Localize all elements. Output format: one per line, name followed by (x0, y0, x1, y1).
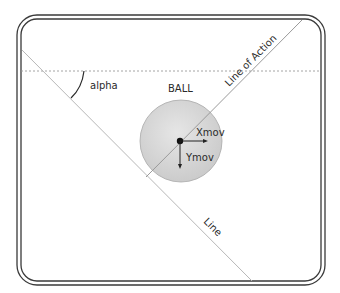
line-label: Line (202, 216, 225, 239)
ball-label: BALL (168, 83, 193, 94)
alpha-label: alpha (90, 80, 118, 91)
diagram-canvas: alpha BALL Xmov Ymov Line of Action Line (0, 0, 340, 293)
line (22, 50, 252, 281)
ymov-label: Ymov (185, 152, 214, 163)
line-of-action-label: Line of Action (223, 32, 279, 88)
alpha-angle-arc (71, 71, 84, 98)
line-of-action (146, 20, 302, 177)
xmov-label: Xmov (196, 127, 225, 138)
